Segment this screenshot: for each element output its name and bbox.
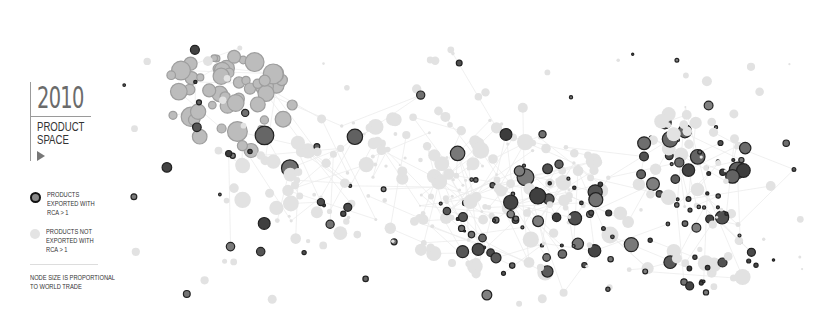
product-node-not-exported[interactable]: [700, 156, 703, 159]
product-node[interactable]: [250, 97, 265, 112]
product-node-exported[interactable]: [602, 227, 606, 231]
product-node-not-exported[interactable]: [798, 256, 801, 259]
product-node-not-exported[interactable]: [691, 183, 705, 197]
product-node-not-exported[interactable]: [797, 216, 804, 223]
product-node-exported[interactable]: [632, 53, 634, 55]
product-node-not-exported[interactable]: [268, 295, 277, 304]
product-node-exported[interactable]: [704, 101, 713, 110]
product-node-not-exported[interactable]: [702, 76, 712, 86]
product-node-not-exported[interactable]: [290, 233, 301, 244]
product-node-exported[interactable]: [702, 280, 705, 283]
product-node-not-exported[interactable]: [317, 114, 326, 123]
product-node-not-exported[interactable]: [735, 269, 751, 285]
product-node-exported[interactable]: [675, 58, 679, 62]
product-node-exported[interactable]: [226, 242, 234, 250]
product-node-exported[interactable]: [479, 234, 487, 242]
product-node-not-exported[interactable]: [373, 163, 377, 167]
product-node-not-exported[interactable]: [311, 206, 323, 218]
product-node-exported[interactable]: [457, 246, 469, 258]
product-node[interactable]: [237, 141, 247, 151]
product-node[interactable]: [169, 111, 177, 119]
product-node-exported[interactable]: [513, 216, 518, 221]
product-node-not-exported[interactable]: [570, 149, 579, 158]
product-node-exported[interactable]: [468, 231, 474, 237]
product-node-exported[interactable]: [363, 276, 368, 281]
product-node-exported[interactable]: [687, 266, 692, 271]
product-node-exported[interactable]: [248, 149, 252, 153]
product-node-not-exported[interactable]: [415, 244, 427, 256]
product-node-not-exported[interactable]: [707, 118, 716, 127]
product-node-not-exported[interactable]: [257, 151, 266, 160]
product-node-exported[interactable]: [504, 195, 518, 209]
product-node-not-exported[interactable]: [506, 179, 515, 188]
product-node-not-exported[interactable]: [423, 219, 426, 222]
product-node-not-exported[interactable]: [448, 259, 456, 267]
product-node-not-exported[interactable]: [723, 179, 728, 184]
product-node-not-exported[interactable]: [402, 131, 410, 139]
product-node-exported[interactable]: [500, 129, 512, 141]
product-node-not-exported[interactable]: [549, 228, 558, 237]
product-node-not-exported[interactable]: [681, 259, 689, 267]
product-node-exported[interactable]: [443, 207, 450, 214]
product-node-exported[interactable]: [502, 271, 506, 275]
product-node-not-exported[interactable]: [291, 136, 305, 150]
product-node-not-exported[interactable]: [683, 205, 686, 208]
product-node-exported[interactable]: [606, 210, 612, 216]
product-node-not-exported[interactable]: [224, 75, 231, 82]
product-node-not-exported[interactable]: [488, 154, 498, 164]
product-node-exported[interactable]: [739, 158, 744, 163]
product-node-not-exported[interactable]: [667, 127, 681, 141]
product-node-exported[interactable]: [783, 140, 789, 146]
product-node-not-exported[interactable]: [494, 177, 501, 184]
product-node-not-exported[interactable]: [288, 215, 291, 218]
product-node-not-exported[interactable]: [428, 149, 440, 161]
product-node-not-exported[interactable]: [385, 147, 391, 153]
product-node-not-exported[interactable]: [481, 165, 484, 168]
product-node-not-exported[interactable]: [203, 56, 213, 66]
product-node-not-exported[interactable]: [451, 195, 454, 198]
product-node-exported[interactable]: [183, 291, 190, 298]
product-node-exported[interactable]: [226, 151, 232, 157]
product-node-exported[interactable]: [716, 194, 720, 198]
product-node-exported[interactable]: [459, 213, 468, 222]
product-node-not-exported[interactable]: [447, 122, 453, 128]
product-node-exported[interactable]: [703, 206, 706, 209]
product-node-not-exported[interactable]: [458, 188, 461, 191]
product-node-exported[interactable]: [624, 238, 638, 252]
product-node-exported[interactable]: [725, 212, 728, 215]
product-node-exported[interactable]: [482, 290, 492, 300]
product-node-exported[interactable]: [548, 182, 551, 185]
product-node-not-exported[interactable]: [531, 149, 534, 152]
product-node-not-exported[interactable]: [488, 119, 491, 122]
product-node-exported[interactable]: [341, 211, 346, 216]
product-node-not-exported[interactable]: [587, 242, 593, 248]
product-node-exported[interactable]: [560, 244, 563, 247]
product-node-not-exported[interactable]: [421, 240, 427, 246]
product-node-not-exported[interactable]: [428, 131, 431, 134]
product-node-not-exported[interactable]: [266, 155, 280, 169]
product-node-not-exported[interactable]: [453, 173, 459, 179]
product-node[interactable]: [171, 83, 188, 100]
product-node-not-exported[interactable]: [606, 176, 610, 180]
product-node-exported[interactable]: [707, 172, 711, 176]
product-node-not-exported[interactable]: [265, 189, 274, 198]
product-node-not-exported[interactable]: [386, 112, 399, 125]
product-node-not-exported[interactable]: [382, 198, 387, 203]
product-node-exported[interactable]: [555, 160, 563, 168]
product-node-not-exported[interactable]: [523, 231, 539, 247]
product-node[interactable]: [260, 116, 268, 124]
product-node-not-exported[interactable]: [347, 216, 351, 220]
product-node-not-exported[interactable]: [451, 52, 455, 56]
product-node-not-exported[interactable]: [524, 257, 535, 268]
product-node-exported[interactable]: [123, 84, 126, 87]
product-node-not-exported[interactable]: [449, 215, 455, 221]
product-node-not-exported[interactable]: [340, 124, 343, 127]
product-node-exported[interactable]: [317, 199, 324, 206]
product-node-not-exported[interactable]: [397, 166, 407, 176]
product-node-not-exported[interactable]: [131, 125, 138, 132]
product-node-not-exported[interactable]: [201, 276, 209, 284]
product-node-exported[interactable]: [754, 263, 758, 267]
product-node-not-exported[interactable]: [715, 160, 721, 166]
product-node-not-exported[interactable]: [503, 187, 508, 192]
product-node-not-exported[interactable]: [801, 268, 803, 270]
